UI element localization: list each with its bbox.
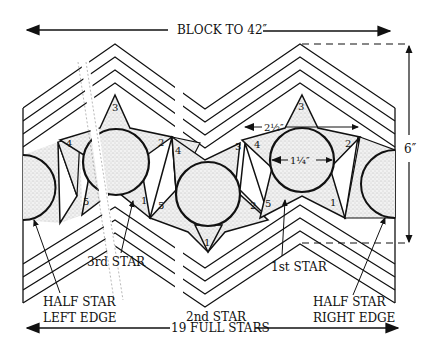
piece-5: 5 <box>158 200 164 211</box>
piece-1: 1 <box>141 195 147 206</box>
piece-2: 2 <box>158 137 164 148</box>
piece-5: 5 <box>265 198 271 209</box>
piece-3: 3 <box>235 141 241 152</box>
piece-3: 3 <box>298 101 304 112</box>
quilt-border-diagram: BLOCK TO 42″ <box>0 0 439 355</box>
circle-diameter-label: 1¼″ <box>290 155 310 166</box>
top-dimension: BLOCK TO 42″ <box>27 23 390 37</box>
third-star-label: 3rd STAR <box>87 255 146 269</box>
height-label: 6″ <box>404 142 417 156</box>
half-star-right-line1: HALF STAR <box>313 295 386 309</box>
piece-5: 5 <box>83 196 89 207</box>
top-dimension-label: BLOCK TO 42″ <box>177 23 268 37</box>
first-star-label: 1st STAR <box>271 260 328 274</box>
piece-1: 1 <box>204 237 210 248</box>
half-star-right-line2: RIGHT EDGE <box>313 311 395 325</box>
piece-2: 2 <box>345 138 351 149</box>
piece-1: 1 <box>330 197 336 208</box>
star-width-label: 2½″ <box>264 122 284 133</box>
piece-4: 4 <box>254 139 260 150</box>
callout-first-star: 1st STAR <box>271 200 328 274</box>
piece-3: 3 <box>112 102 118 113</box>
piece-4: 4 <box>175 145 181 156</box>
callout-half-star-left: HALF STAR LEFT EDGE <box>34 220 117 325</box>
piece-2: 2 <box>250 200 256 211</box>
piece-4: 4 <box>66 138 72 149</box>
half-star-left-line1: HALF STAR <box>43 295 116 309</box>
bottom-dimension-label: 19 FULL STARS <box>171 321 270 335</box>
half-star-left-line2: LEFT EDGE <box>43 311 117 325</box>
